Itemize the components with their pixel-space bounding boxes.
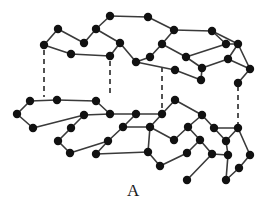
lattice-atom [146,123,154,131]
lattice-atom [54,25,62,33]
lattice-atom [182,53,190,61]
lattice-atom [119,123,127,131]
lattice-atom [171,66,179,74]
lattice-atom [170,136,178,144]
lattice-atom [184,123,192,131]
lattice-atom [26,97,34,105]
lattice-atom [156,162,164,170]
lattice-atom [106,52,114,60]
lattice-atom [104,137,112,145]
lattice-atom [92,25,100,33]
lattice-atom [198,111,206,119]
lattice-atom [234,124,242,132]
lattice-atom [222,137,230,145]
lattice-atom [158,40,166,48]
lattice-atom [234,79,242,87]
lattice-atom [53,96,61,104]
lattice-atom [235,164,243,172]
lattice-atom [106,12,114,20]
lattice-atom [246,151,254,159]
lattice-bond [110,16,148,17]
lattice-atom [144,148,152,156]
lattice-atom [224,55,232,63]
lattice-atom [54,137,62,145]
lattice-atom [80,111,88,119]
lattice-atom [67,50,75,58]
lattice-atom [196,136,204,144]
lattice-atom [170,26,178,34]
lattice-atom [80,39,88,47]
lattice-atom [66,149,74,157]
lattice-atom [13,110,21,118]
lattice-atom [222,40,230,48]
lattice-atom [146,53,154,61]
lattice-atom [158,110,166,118]
lattice-atom [234,40,242,48]
lattice-atom [132,110,140,118]
lattice-atom [144,13,152,21]
lattice-atom [132,58,140,66]
lattice-atom [92,150,100,158]
lattice-atom [208,150,216,158]
lattice-atom [106,110,114,118]
lattice-atom [198,64,206,72]
lattice-atom [92,97,100,105]
figure-label: A [0,182,267,199]
lattice-atom [116,39,124,47]
lattice-atom [197,76,205,84]
lattice-bond [174,30,212,31]
lattice-bond [57,100,96,101]
lattice-atom [40,41,48,49]
lattice-atom [224,151,232,159]
lattice-atom [210,124,218,132]
lattice-atom [183,149,191,157]
lattice-atom [171,96,179,104]
crystal-lattice-figure: A [0,0,267,215]
lattice-atom [208,27,216,35]
lattice-atom [246,65,254,73]
lattice-atom [67,124,75,132]
lattice-atom [29,124,37,132]
